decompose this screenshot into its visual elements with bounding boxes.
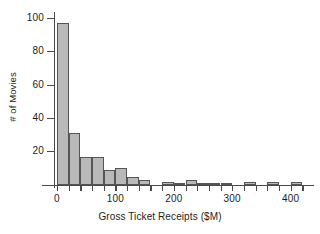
x-tick-mark-60 <box>92 185 93 191</box>
histogram-bar <box>57 23 69 185</box>
x-axis-line <box>42 185 314 186</box>
x-tick-mark-200 <box>174 185 175 191</box>
x-tick-mark-340 <box>256 185 257 191</box>
y-axis-line <box>54 12 55 188</box>
x-tick-mark-120 <box>127 185 128 191</box>
histogram-bar <box>197 183 209 185</box>
histogram-bar <box>115 168 127 185</box>
x-tick-label-100: 100 <box>95 193 135 204</box>
x-tick-mark-300 <box>232 185 233 191</box>
x-tick-mark-240 <box>197 185 198 191</box>
x-tick-mark-420 <box>302 185 303 191</box>
y-tick-mark-20 <box>47 151 55 152</box>
histogram-bar <box>162 182 174 185</box>
x-tick-label-300: 300 <box>212 193 252 204</box>
x-tick-mark-220 <box>186 185 187 191</box>
histogram-figure: 100 80 60 40 20 0 100 200 300 400 <box>0 0 320 234</box>
x-tick-mark-160 <box>150 185 151 191</box>
histogram-bar <box>127 177 139 185</box>
x-tick-mark-400 <box>291 185 292 191</box>
x-tick-mark-180 <box>162 185 163 191</box>
histogram-bar <box>69 133 81 185</box>
x-axis-title: Gross Ticket Receipts ($M) <box>0 211 320 222</box>
x-tick-mark-380 <box>279 185 280 191</box>
x-tick-mark-40 <box>80 185 81 191</box>
x-tick-mark-280 <box>221 185 222 191</box>
histogram-bar <box>244 182 256 185</box>
histogram-bar <box>104 170 116 185</box>
y-tick-mark-60 <box>47 85 55 86</box>
x-tick-label-0: 0 <box>37 193 77 204</box>
x-tick-mark-100 <box>115 185 116 191</box>
histogram-bar <box>186 180 198 185</box>
x-tick-mark-360 <box>267 185 268 191</box>
histogram-bar <box>221 183 233 185</box>
histogram-bar <box>80 157 92 185</box>
plot-area: 100 80 60 40 20 0 100 200 300 400 <box>0 0 320 234</box>
y-tick-mark-80 <box>47 51 55 52</box>
y-tick-label-20: 20 <box>4 146 44 156</box>
x-tick-mark-260 <box>209 185 210 191</box>
y-tick-mark-100 <box>47 18 55 19</box>
x-tick-mark-20 <box>69 185 70 191</box>
histogram-bar <box>267 182 279 185</box>
histogram-bar <box>139 180 151 185</box>
x-tick-mark-0 <box>57 185 58 191</box>
x-tick-mark-320 <box>244 185 245 191</box>
y-tick-label-100: 100 <box>4 13 44 23</box>
y-tick-mark-40 <box>47 118 55 119</box>
x-tick-label-200: 200 <box>154 193 194 204</box>
histogram-bar <box>209 183 221 185</box>
histogram-bar <box>174 183 186 185</box>
x-tick-mark-80 <box>104 185 105 191</box>
histogram-bar <box>92 157 104 185</box>
x-tick-label-400: 400 <box>271 193 311 204</box>
histogram-bar <box>291 182 303 185</box>
y-axis-title: # of Movies <box>8 52 18 142</box>
x-tick-mark-140 <box>139 185 140 191</box>
